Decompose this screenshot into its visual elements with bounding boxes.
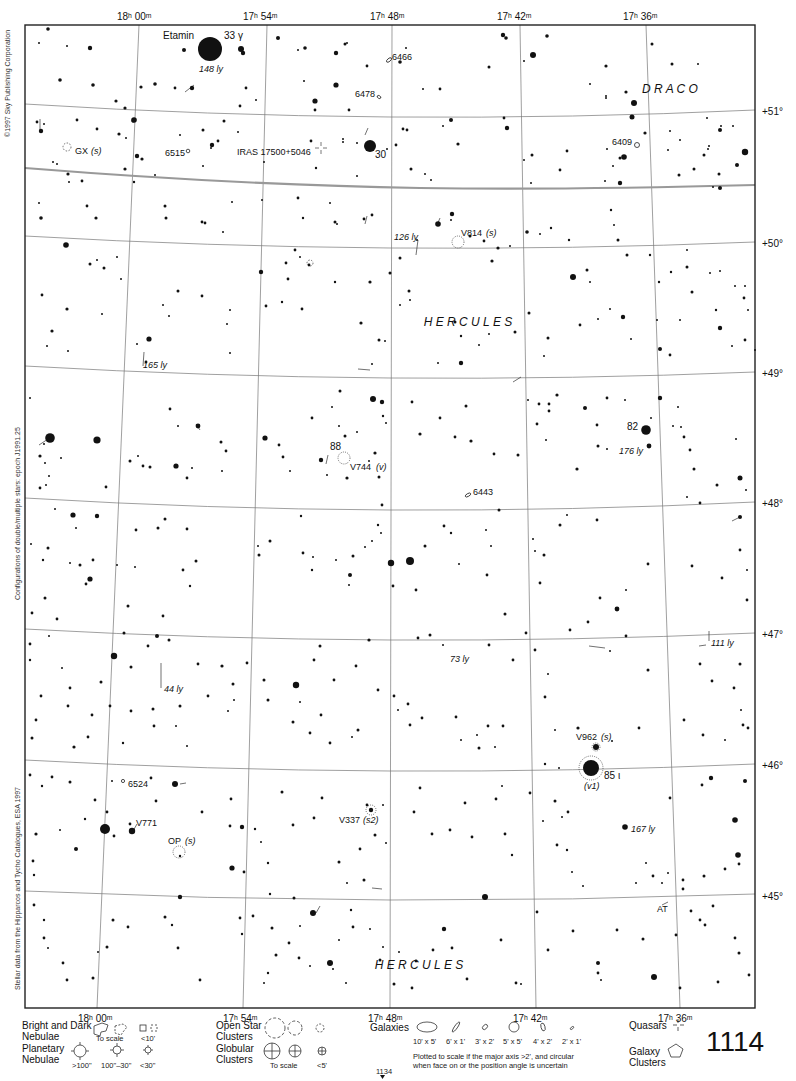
- star-dot: [709, 272, 711, 274]
- star-dot: [371, 540, 373, 542]
- star-dot: [701, 784, 704, 787]
- star-dot: [419, 787, 422, 790]
- variable-star-rings: [173, 236, 603, 858]
- star-dot: [135, 154, 139, 158]
- star-dot: [319, 458, 323, 462]
- star-dot: [597, 972, 600, 975]
- proper-motion-tick: [358, 369, 370, 370]
- star-dot: [87, 576, 92, 581]
- star-dot: [504, 833, 507, 836]
- star-dot: [739, 549, 742, 552]
- star-dot: [667, 149, 669, 151]
- dec-grid-line: [25, 236, 755, 248]
- star-dot: [550, 227, 552, 229]
- star-dot: [342, 141, 344, 143]
- star-dot: [566, 150, 569, 153]
- star-dot: [230, 798, 233, 801]
- star-dot: [424, 173, 426, 175]
- star-chart: Etamin33 γ148 ly64666478GX(s)6515IRAS 17…: [0, 0, 796, 1081]
- star-dot: [712, 905, 715, 908]
- star-dot: [523, 60, 525, 62]
- star-dot: [368, 280, 371, 283]
- star-dot: [599, 597, 602, 600]
- ra-label-bottom: 17ʰ 42ᵐ: [513, 1013, 548, 1024]
- star-dot: [478, 747, 481, 750]
- star-dot: [130, 710, 133, 713]
- star-dot: [182, 569, 185, 572]
- star-dot: [312, 556, 314, 558]
- star-dot: [155, 634, 159, 638]
- object-label: V962: [576, 732, 597, 742]
- object-label: 6478: [355, 89, 375, 99]
- draco-hercules-boundary: [25, 168, 755, 189]
- star-dot: [534, 550, 536, 552]
- star-dot: [30, 543, 32, 545]
- star-dot: [708, 145, 710, 147]
- star-dot: [165, 217, 168, 220]
- star-dot: [336, 223, 338, 225]
- star-dot: [597, 318, 599, 320]
- dec-grid-line: [25, 498, 755, 510]
- star-dot: [617, 239, 620, 242]
- star-dot: [442, 644, 444, 646]
- star-dot: [81, 180, 84, 183]
- star-dot: [39, 129, 43, 133]
- star-dot: [59, 829, 61, 831]
- star-dot: [606, 148, 608, 150]
- star-dot: [720, 125, 722, 127]
- star-dot: [178, 895, 182, 899]
- star-dot: [382, 415, 384, 417]
- star-dot: [123, 632, 126, 635]
- star-dot: [29, 659, 31, 661]
- star-dot: [168, 315, 170, 317]
- star-dot: [460, 739, 462, 741]
- star-dot: [267, 862, 269, 864]
- object-label: 30: [375, 149, 387, 160]
- star-dot: [366, 804, 369, 807]
- star-dot: [252, 915, 255, 918]
- star-dot: [109, 705, 112, 708]
- star-dot: [168, 639, 171, 642]
- ra-grid-line: [97, 25, 139, 1008]
- star-dot: [754, 349, 756, 351]
- object-label: 6466: [392, 52, 412, 62]
- globular-cluster-medium-icon: [289, 1045, 301, 1057]
- star-dot: [547, 673, 549, 675]
- star-dot: [246, 662, 249, 665]
- star-dot: [342, 138, 344, 140]
- star-dot: [743, 779, 747, 783]
- star-dot: [308, 264, 311, 267]
- star-dot: [289, 470, 291, 472]
- star-dot: [41, 294, 44, 297]
- star-dot: [45, 484, 47, 486]
- star-dot: [451, 947, 454, 950]
- star-dot: [482, 894, 488, 900]
- proper-motion-tick: [416, 240, 418, 255]
- star-dot: [137, 455, 139, 457]
- star-dot: [679, 319, 681, 321]
- star-dot: [263, 161, 265, 163]
- star-dot: [490, 259, 493, 262]
- star-dot: [116, 256, 118, 258]
- star-dot: [658, 396, 662, 400]
- star-dot: [117, 132, 120, 135]
- ra-grid-line: [646, 25, 680, 1008]
- star-dot: [320, 714, 323, 717]
- dec-label: +51°: [762, 106, 783, 117]
- star-dot: [561, 816, 563, 818]
- star-dot: [544, 763, 546, 765]
- star-dot: [100, 681, 103, 684]
- ra-label-top: 18ʰ 00ᵐ: [117, 11, 152, 22]
- star-dot: [545, 34, 549, 38]
- star-dot: [651, 974, 657, 980]
- star-dot: [370, 396, 376, 402]
- star-dot: [265, 305, 268, 308]
- star-dot: [746, 569, 748, 571]
- star-dot: [97, 951, 99, 953]
- star-dot: [738, 515, 742, 519]
- atlas-page-number: 1114: [706, 1026, 764, 1058]
- star-dot: [106, 811, 109, 814]
- star-dot: [335, 559, 337, 561]
- star-dot: [129, 460, 132, 463]
- star-dot: [67, 705, 70, 708]
